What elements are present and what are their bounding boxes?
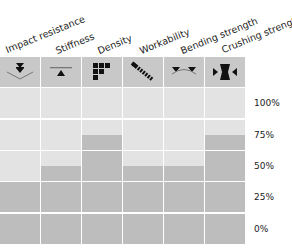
cell-fill (164, 166, 204, 181)
grid-cell (82, 214, 122, 244)
cell-fill (41, 166, 81, 181)
grid-cell (0, 88, 40, 118)
grid-cell (164, 151, 204, 181)
cell-fill (205, 214, 245, 244)
workability-icon (123, 57, 163, 87)
grid-cell (205, 214, 245, 244)
cell-fill (205, 182, 245, 212)
cell-fill (205, 151, 245, 181)
grid-cell (164, 120, 204, 150)
cell-fill (41, 214, 81, 244)
grid-cell (82, 88, 122, 118)
grid-cell (41, 151, 81, 181)
cell-fill (82, 151, 122, 181)
grid-cell (0, 120, 40, 150)
cell-fill (164, 214, 204, 244)
grid-cell (123, 120, 163, 150)
grid-cell (164, 214, 204, 244)
grid-cell (205, 120, 245, 150)
cell-fill (82, 214, 122, 244)
cell-fill (41, 182, 81, 212)
crushing-icon (205, 57, 245, 87)
grid-cell (82, 151, 122, 181)
cell-fill (82, 182, 122, 212)
cell-fill (123, 182, 163, 212)
tick-0: 0% (254, 224, 268, 234)
grid-cell (41, 214, 81, 244)
impact-icon (0, 57, 40, 87)
tick-75: 75% (254, 130, 274, 140)
cell-fill (123, 166, 163, 181)
grid-cell (41, 120, 81, 150)
stiffness-icon (41, 57, 81, 87)
grid-cell (82, 182, 122, 212)
label-stiffness: Stiffness (54, 31, 96, 56)
grid-cell (41, 88, 81, 118)
tick-25: 25% (254, 192, 274, 202)
grid-cell (82, 120, 122, 150)
cell-fill (82, 135, 122, 150)
grid-cell (123, 88, 163, 118)
grid-cell (164, 88, 204, 118)
grid-cell (123, 214, 163, 244)
cell-fill (164, 182, 204, 212)
label-density: Density (96, 32, 134, 56)
grid-cell (41, 182, 81, 212)
grid-cell (0, 182, 40, 212)
cell-fill (0, 214, 40, 244)
grid-cell (205, 88, 245, 118)
cell-fill (123, 214, 163, 244)
grid-cell (205, 151, 245, 181)
cell-fill (205, 135, 245, 150)
cell-fill (0, 182, 40, 212)
density-icon (82, 57, 122, 87)
bending-icon (164, 57, 204, 87)
tick-50: 50% (254, 161, 274, 171)
grid-cell (123, 182, 163, 212)
grid-cell (164, 182, 204, 212)
grid-cell (0, 151, 40, 181)
grid-cell (123, 151, 163, 181)
tick-100: 100% (254, 98, 280, 108)
grid-cell (0, 214, 40, 244)
grid-cell (205, 182, 245, 212)
